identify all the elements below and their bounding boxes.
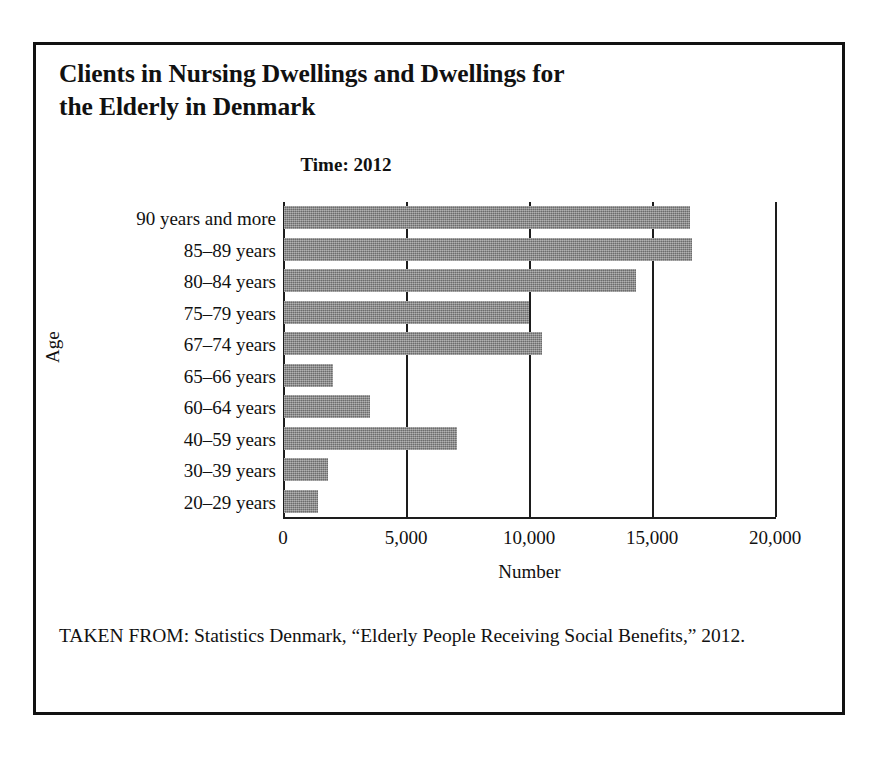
y-axis-tick-label: 20–29 years xyxy=(76,493,276,512)
bar xyxy=(284,490,318,513)
x-axis-tick-label: 0 xyxy=(278,527,288,549)
y-axis-tick-label: 65–66 years xyxy=(76,367,276,386)
y-axis-tick-labels: 90 years and more85–89 years80–84 years7… xyxy=(76,202,276,517)
bar xyxy=(284,206,690,229)
x-axis-tick-label: 5,000 xyxy=(385,527,428,549)
y-axis-title: Age xyxy=(42,331,64,363)
y-axis-tick-label: 90 years and more xyxy=(76,209,276,228)
x-axis-tick-labels: 05,00010,00015,00020,000 xyxy=(283,527,776,553)
y-axis-tick-label: 67–74 years xyxy=(76,335,276,354)
y-axis-tick-label: 80–84 years xyxy=(76,272,276,291)
bar xyxy=(284,301,529,324)
y-axis-tick-label: 85–89 years xyxy=(76,241,276,260)
bar xyxy=(284,364,333,387)
bar xyxy=(284,395,370,418)
y-axis-tick-label: 40–59 years xyxy=(76,430,276,449)
figure-frame: Clients in Nursing Dwellings and Dwellin… xyxy=(33,42,845,715)
x-axis-tick-label: 20,000 xyxy=(749,527,801,549)
y-axis-tick-label: 30–39 years xyxy=(76,461,276,480)
x-axis-tick-label: 15,000 xyxy=(626,527,678,549)
source-caption: TAKEN FROM: Statistics Denmark, “Elderly… xyxy=(59,621,799,651)
bar xyxy=(284,427,457,450)
y-axis-tick-label: 60–64 years xyxy=(76,398,276,417)
plot-wrapper: Age 90 years and more85–89 years80–84 ye… xyxy=(36,45,842,712)
x-axis-title: Number xyxy=(283,561,776,583)
y-axis-tick-label: 75–79 years xyxy=(76,304,276,323)
bar xyxy=(284,332,542,355)
gridline-20000 xyxy=(775,202,777,517)
x-axis-line xyxy=(283,517,776,519)
plot-area xyxy=(283,202,776,517)
bar xyxy=(284,238,692,261)
x-axis-tick-label: 10,000 xyxy=(503,527,555,549)
bar xyxy=(284,458,328,481)
bar xyxy=(284,269,636,292)
